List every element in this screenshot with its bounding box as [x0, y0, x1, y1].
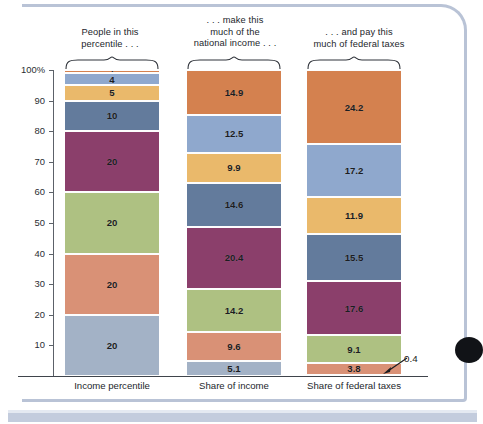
y-tick-label: 90: [5, 95, 45, 106]
y-tick-label: 20: [5, 309, 45, 320]
column-header-share-of-federal-taxes: . . . and pay this much of federal taxes: [296, 27, 422, 50]
y-tick: [49, 284, 54, 285]
y-tick: [49, 345, 54, 346]
x-axis-label-0: Income percentile: [62, 380, 162, 391]
x-axis-label-1: Share of income: [184, 380, 284, 391]
bar-segment-label: 3.8: [347, 363, 360, 374]
header-line: People in this: [58, 27, 162, 39]
y-tick: [49, 192, 54, 193]
brace-col2: [186, 56, 282, 70]
y-tick: [49, 101, 54, 102]
header-line: percentile . . .: [58, 39, 162, 51]
bar-segment[interactable]: 9.9: [187, 153, 281, 183]
y-tick-label: 30: [5, 278, 45, 289]
bar-share-of-federal-taxes[interactable]: 24.217.211.915.517.69.13.8: [307, 70, 401, 376]
bar-segment[interactable]: 24.2: [307, 70, 401, 144]
y-tick-label: 70: [5, 156, 45, 167]
bar-segment-label: 5: [109, 87, 114, 98]
bar-segment[interactable]: 15.5: [307, 234, 401, 282]
bar-segment-label: 20: [107, 340, 118, 351]
bar-segment[interactable]: 10: [65, 101, 159, 132]
bar-segment-label: 24.2: [345, 102, 364, 113]
bar-segment[interactable]: 9.6: [187, 332, 281, 361]
callout-label-0-4: 0.4: [404, 353, 418, 364]
bar-segment-label: 9.1: [347, 344, 360, 355]
y-tick: [49, 131, 54, 132]
column-header-income-percentile: People in this percentile . . .: [58, 27, 162, 50]
y-tick: [49, 223, 54, 224]
y-tick-label: 50: [5, 217, 45, 228]
header-line: . . . and pay this: [296, 27, 422, 39]
bar-segment-label: 10: [107, 110, 118, 121]
bar-segment[interactable]: 11.9: [307, 197, 401, 234]
bar-segment-label: 14.9: [225, 87, 244, 98]
header-line: . . . make this: [178, 15, 292, 27]
bar-segment-label: 20.4: [225, 252, 244, 263]
bar-segment[interactable]: 14.6: [187, 183, 281, 227]
bar-segment-label: 15.5: [345, 252, 364, 263]
bar-share-of-income[interactable]: 14.912.59.914.620.414.29.65.1: [187, 70, 281, 376]
bar-segment[interactable]: 20: [65, 315, 159, 376]
header-line: national income . . .: [178, 38, 292, 50]
bar-segment-label: 12.5: [225, 128, 244, 139]
bar-segment-label: 14.6: [225, 199, 244, 210]
bar-segment-label: 14.2: [225, 305, 244, 316]
bar-segment[interactable]: 20: [65, 192, 159, 253]
bar-segment-label: 17.2: [345, 165, 364, 176]
bar-segment-label: 20: [107, 279, 118, 290]
y-tick-label: 40: [5, 248, 45, 259]
y-tick-label: 60: [5, 186, 45, 197]
x-axis-line: [18, 376, 428, 377]
bar-segment[interactable]: 20: [65, 254, 159, 315]
bar-segment-label: 5.1: [227, 363, 240, 374]
y-tick: [49, 315, 54, 316]
bar-segment[interactable]: 17.2: [307, 144, 401, 197]
bar-segment-label: 20: [107, 156, 118, 167]
bar-segment-label: 20: [107, 217, 118, 228]
bar-segment-label: 17.6: [345, 303, 364, 314]
header-line: much of the: [178, 27, 292, 39]
bar-segment[interactable]: 4: [65, 73, 159, 85]
bar-segment[interactable]: 12.5: [187, 115, 281, 153]
bar-segment-label: 11.9: [345, 210, 363, 221]
bar-segment-label: 9.9: [227, 162, 240, 173]
bar-segment[interactable]: 5: [65, 85, 159, 100]
brace-col1: [64, 56, 160, 70]
y-tick: [49, 162, 54, 163]
x-axis-label-2: Share of federal taxes: [294, 380, 414, 391]
bar-segment[interactable]: 14.2: [187, 289, 281, 332]
y-tick-label: 80: [5, 125, 45, 136]
bar-segment[interactable]: 20.4: [187, 227, 281, 289]
y-tick: [49, 70, 54, 71]
bar-segment-label: 9.6: [227, 341, 240, 352]
bar-segment-label: 4: [109, 74, 114, 85]
bar-segment[interactable]: 17.6: [307, 281, 401, 335]
bar-segment[interactable]: 14.9: [187, 70, 281, 115]
bar-segment[interactable]: 5.1: [187, 361, 281, 376]
brace-col3: [306, 56, 402, 70]
y-tick: [49, 254, 54, 255]
bar-income-percentile[interactable]: 1451020202020: [65, 70, 159, 376]
bar-segment[interactable]: 20: [65, 131, 159, 192]
y-tick-label: 10: [5, 339, 45, 350]
y-tick-label: 100%: [5, 64, 45, 75]
column-header-share-of-income: . . . make this much of the national inc…: [178, 15, 292, 50]
header-line: much of federal taxes: [296, 39, 422, 51]
